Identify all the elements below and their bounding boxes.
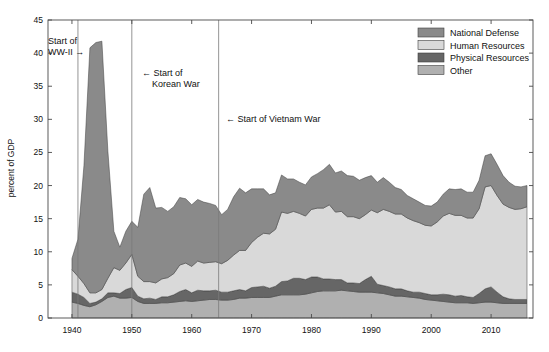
y-tick-label: 40 [34,48,44,58]
stacked-area-chart: 0510152025303540451940195019601970198019… [0,0,549,352]
legend-swatch-3 [418,66,444,75]
chart-container: 0510152025303540451940195019601970198019… [0,0,549,352]
legend-label-0: National Defense [450,28,519,38]
y-tick-label: 20 [34,181,44,191]
y-tick-label: 10 [34,247,44,257]
legend-label-1: Human Resources [450,41,525,51]
x-tick-label: 1940 [62,325,81,335]
y-tick-label: 0 [38,313,43,323]
legend-swatch-2 [418,53,444,62]
legend-swatch-1 [418,41,444,50]
legend-label-3: Other [450,66,473,76]
annotation-vietnam: ← Start of Vietnam War [226,114,321,124]
x-tick-label: 2010 [482,325,501,335]
y-tick-label: 25 [34,147,44,157]
y-tick-label: 5 [38,280,43,290]
x-tick-label: 1960 [182,325,201,335]
annotation-ww2-line1: Start of [48,36,78,46]
y-tick-label: 30 [34,114,44,124]
y-axis-title: percent of GDP [6,138,16,197]
y-tick-label: 45 [34,15,44,25]
x-tick-label: 1990 [362,325,381,335]
x-tick-label: 1950 [122,325,141,335]
annotation-vietnam-line1: ← Start of Vietnam War [226,114,321,124]
x-tick-label: 1980 [302,325,321,335]
x-tick-label: 2000 [422,325,441,335]
x-tick-label: 1970 [242,325,261,335]
legend-swatch-0 [418,28,444,37]
legend-label-2: Physical Resources [450,53,530,63]
y-tick-label: 35 [34,81,44,91]
annotation-korea-line2: Korean War [152,79,200,89]
y-tick-label: 15 [34,214,44,224]
annotation-ww2-line2: WW-II → [48,47,84,57]
annotation-korea-line1: ← Start of [142,68,183,78]
